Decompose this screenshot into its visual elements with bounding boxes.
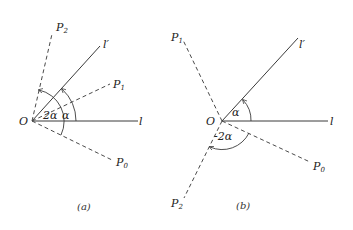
- label-two-alpha-a: 2α: [42, 109, 58, 122]
- label-l-b: l: [330, 115, 334, 128]
- caption-b: (b): [236, 200, 250, 211]
- label-alpha-a: α: [62, 109, 70, 122]
- label-alpha-b: α: [232, 106, 240, 119]
- label-p2-a: P2: [55, 21, 68, 35]
- label-l-prime-a: l′: [103, 38, 110, 51]
- line-p0-a: [32, 121, 112, 160]
- label-l-prime-b: l′: [299, 38, 306, 51]
- angle-arc-alpha-b: [243, 100, 251, 121]
- panel-b: P1 l′ O l P0 P2 α -2α (b): [170, 31, 334, 211]
- label-origin-b: O: [206, 115, 215, 128]
- label-p0-b: P0: [312, 160, 325, 174]
- label-l-a: l: [139, 115, 143, 128]
- line-p2-a: [32, 34, 52, 121]
- panel-a: P2 l′ P1 O l P0 2α α (a): [19, 21, 143, 212]
- line-p1-b: [183, 40, 222, 121]
- label-p0-a: P0: [115, 156, 128, 170]
- label-origin-a: O: [19, 115, 28, 128]
- caption-a: (a): [77, 201, 91, 212]
- label-p2-b: P2: [170, 197, 183, 211]
- label-neg-two-alpha-b: -2α: [214, 130, 233, 143]
- reflection-diagram: P2 l′ P1 O l P0 2α α (a) P1 l′ O l P0 P2…: [0, 0, 353, 230]
- line-p0-b: [222, 121, 310, 162]
- label-p1-a: P1: [112, 78, 125, 92]
- label-p1-b: P1: [170, 31, 183, 45]
